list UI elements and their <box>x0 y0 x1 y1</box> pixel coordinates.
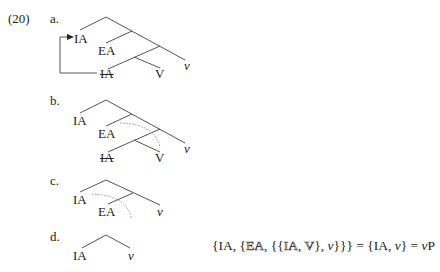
tree-a-label-ia-moved: IA <box>74 32 88 45</box>
formula-v-deleted: V <box>304 238 314 253</box>
formula-mid2: }, <box>314 238 327 253</box>
tree-b-label-v-head: V <box>155 151 164 164</box>
tree-d-label-ia: IA <box>73 249 87 262</box>
tree-c-label-ia: IA <box>73 193 87 206</box>
formula-close1: }}} = {IA, <box>333 238 394 253</box>
tree-b-lines <box>80 100 185 152</box>
tree-b-label-ia: IA <box>73 114 87 127</box>
arrowhead-icon <box>67 34 74 40</box>
tree-c-label-ea: EA <box>98 205 115 218</box>
tree-a-label-ea: EA <box>98 44 115 57</box>
tree-b-label-ia-copy: IA <box>100 151 114 164</box>
tree-c-lines <box>80 180 160 205</box>
tree-b-label-v-light: v <box>184 142 190 155</box>
tree-c-label-v-light: v <box>157 205 163 218</box>
formula-ea-deleted: EA <box>246 238 264 253</box>
tree-a-label-v-light: v <box>184 59 190 72</box>
tree-a-label-ia-copy: IA <box>100 67 114 80</box>
formula-open: {IA, { <box>212 238 246 253</box>
formula-close2: } = <box>401 238 422 253</box>
set-formula: {IA, {EA, {{IA, V}, v}}} = {IA, v} = vP <box>212 239 435 253</box>
tree-d-label-v-light: v <box>128 249 134 262</box>
tree-d-lines <box>82 235 130 248</box>
tree-a-label-v-head: V <box>155 67 164 80</box>
formula-ia-deleted: IA <box>284 238 298 253</box>
tree-b-label-ea: EA <box>98 127 115 140</box>
formula-mid1: , {{ <box>264 238 284 253</box>
tree-diagrams <box>0 0 440 272</box>
formula-p: P <box>428 238 436 253</box>
